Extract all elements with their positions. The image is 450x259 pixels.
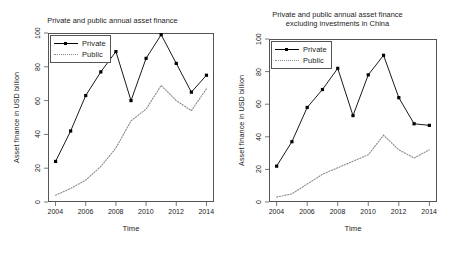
x-tick-label: 2010 [360,208,376,215]
panel-right-title-line-1: Private and public annual asset finance [225,10,450,19]
x-tick-label: 2014 [198,208,214,215]
y-tick-label: 40 [255,133,262,141]
panel-left-x-axis-label: Time [123,224,140,233]
legend-key-public-icon [275,56,299,65]
y-tick-label: 20 [255,166,262,174]
y-tick-label: 20 [34,164,41,172]
x-tick-label: 2010 [138,208,154,215]
y-tick-label: 80 [34,63,41,71]
panel-right-y-axis-label: Asset finance in USD billion [237,75,246,166]
x-tick-label: 2008 [108,208,124,215]
legend-key-private-icon [54,39,78,48]
y-tick-label: 100 [255,33,262,45]
y-tick-label: 60 [255,100,262,108]
panel-right-title: Private and public annual asset finance … [225,10,450,28]
panel-right-x-axis-label: Time [345,224,362,233]
legend-label-public: Public [303,56,324,65]
y-tick-label: 0 [34,200,41,204]
x-tick-label: 2004 [48,208,64,215]
y-tick-label: 40 [34,131,41,139]
y-tick-label: 0 [255,200,262,204]
x-tick-label: 2012 [168,208,184,215]
figure-two-panel-line-charts: Private and public annual asset finance … [0,0,450,259]
panel-left-y-axis-label: Asset finance in USD billion [12,72,21,163]
x-tick-label: 2006 [78,208,94,215]
chart-panel-right: Private and public annual asset finance … [225,0,450,259]
legend-key-private-icon [275,45,299,54]
legend-label-public: Public [82,50,103,59]
y-tick-label: 80 [255,68,262,76]
legend-key-public-icon [54,50,78,59]
panel-right-title-line-2: excluding investments in China [225,19,450,28]
y-tick-label: 60 [34,97,41,105]
panel-left-title-line-1: Private and public annual asset finance [0,16,225,25]
legend-item-private: Private [275,44,327,55]
legend-label-private: Private [303,45,327,54]
x-tick-label: 2006 [299,208,315,215]
panel-left-legend: PrivatePublic [50,35,111,63]
y-tick-label: 100 [34,27,41,39]
x-tick-label: 2014 [421,208,437,215]
legend-item-public: Public [275,55,327,66]
chart-panel-left: Private and public annual asset finance … [0,0,225,259]
legend-item-private: Private [54,38,106,49]
panel-left-title: Private and public annual asset finance [0,16,225,25]
panel-right-legend: PrivatePublic [271,41,332,69]
x-tick-label: 2008 [330,208,346,215]
x-tick-label: 2004 [269,208,285,215]
legend-label-private: Private [82,39,106,48]
legend-item-public: Public [54,49,106,60]
x-tick-label: 2012 [391,208,407,215]
